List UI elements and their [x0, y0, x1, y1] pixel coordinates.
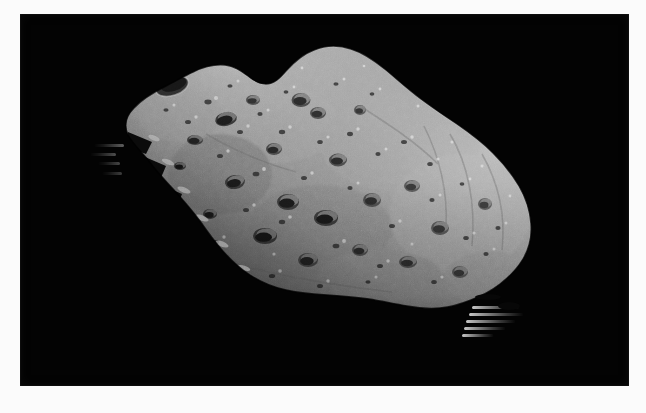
scanline-finger	[466, 320, 516, 323]
scanline-finger	[102, 172, 122, 175]
scanline-finger	[90, 153, 116, 156]
scanline-finger	[94, 144, 124, 147]
scanline-finger	[464, 327, 506, 330]
asteroid-vector	[20, 14, 629, 386]
photograph-plate	[20, 14, 629, 386]
limb-dark-notch	[475, 294, 501, 300]
scanline-finger	[462, 334, 494, 337]
limb-dark-notch	[498, 302, 520, 310]
photo-page: Grayscale spacecraft photograph of an ir…	[0, 0, 646, 413]
scanline-finger	[469, 313, 524, 316]
scanline-finger	[98, 162, 120, 165]
asteroid-image	[20, 14, 629, 386]
